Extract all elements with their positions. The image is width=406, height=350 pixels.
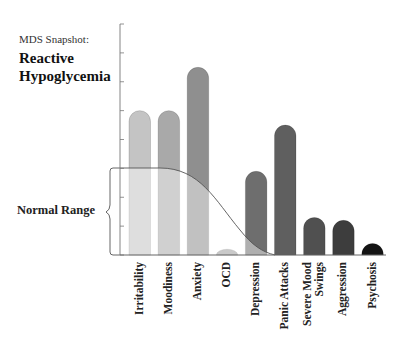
normal-range-brace: [106, 168, 120, 255]
x-label-psychosis: Psychosis: [366, 262, 380, 342]
x-label-ocd: OCD: [220, 262, 234, 342]
x-label-irritability: Irritability: [133, 262, 147, 342]
x-label-aggression: Aggression: [336, 262, 350, 342]
bar-aggression: [333, 220, 355, 255]
bar-psychosis: [362, 243, 384, 255]
x-label-anxiety: Anxiety: [191, 262, 205, 342]
x-label-panic-attacks: Panic Attacks: [278, 262, 292, 342]
x-label-depression: Depression: [249, 262, 263, 342]
x-label-moodiness: Moodiness: [162, 262, 176, 342]
bar-severe-mood-swings: [304, 217, 326, 255]
bar-panic-attacks: [275, 125, 297, 255]
x-label-severe-mood-swings: Severe MoodSwings: [301, 262, 327, 342]
